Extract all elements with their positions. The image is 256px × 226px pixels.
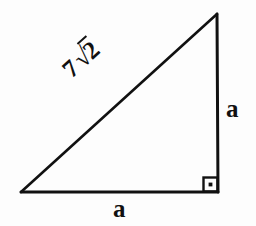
label-bottom-leg: a: [113, 196, 126, 221]
label-right-leg: a: [226, 96, 239, 121]
triangle-edge-right-leg: [217, 14, 218, 192]
geometry-figure: a a 7√2: [0, 0, 256, 226]
triangle-drawing: [0, 0, 256, 226]
right-angle-dot: [209, 183, 213, 187]
right-angle-icon: [204, 178, 218, 192]
triangle-edge-hypotenuse: [21, 14, 217, 192]
